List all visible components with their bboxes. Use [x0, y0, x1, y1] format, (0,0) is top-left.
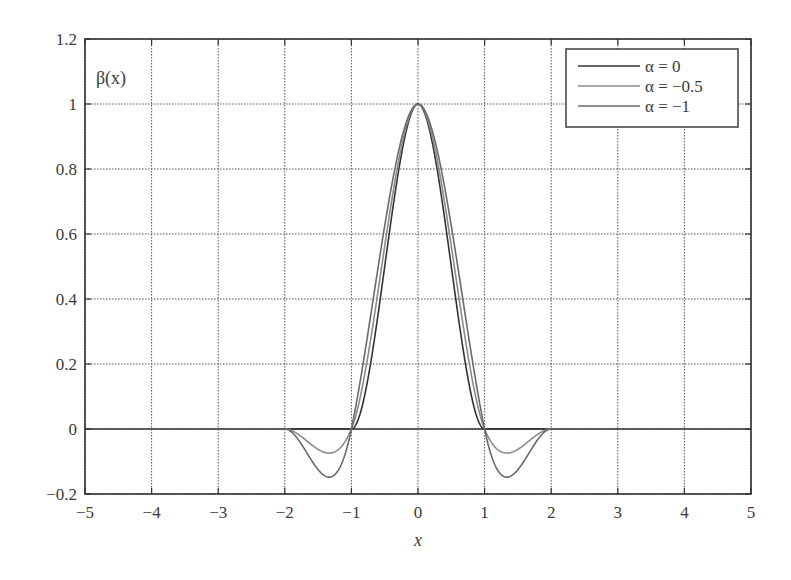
x-axis-label: x: [413, 530, 422, 550]
x-tick-label: −4: [143, 503, 162, 522]
legend-label: α = −0.5: [645, 77, 703, 96]
x-tick-label: −5: [76, 503, 94, 522]
y-tick-label: 0.2: [56, 355, 77, 374]
y-tick-label: 1: [69, 95, 78, 114]
x-tick-label: 5: [747, 503, 756, 522]
y-tick-label: 0.6: [56, 225, 77, 244]
y-tick-label: 0: [69, 420, 78, 439]
y-axis-label: β(x): [96, 68, 126, 89]
x-tick-label: −1: [342, 503, 360, 522]
y-tick-label: −0.2: [46, 485, 77, 504]
legend-label: α = 0: [645, 57, 681, 76]
x-tick-label: 1: [480, 503, 489, 522]
x-tick-label: 4: [680, 503, 689, 522]
x-tick-label: 3: [614, 503, 623, 522]
y-tick-label: 0.4: [56, 290, 78, 309]
x-tick-label: −2: [276, 503, 294, 522]
y-tick-label: 1.2: [56, 30, 77, 49]
legend-label: α = −1: [645, 97, 690, 116]
chart: −5−4−3−2−1012345 −0.200.20.40.60.811.2 x…: [0, 0, 791, 580]
x-tick-label: 0: [414, 503, 423, 522]
y-tick-label: 0.8: [56, 160, 77, 179]
series-line: [285, 104, 551, 429]
x-tick-label: −3: [209, 503, 227, 522]
legend: α = 0α = −0.5α = −1: [566, 49, 738, 127]
x-tick-label: 2: [547, 503, 556, 522]
